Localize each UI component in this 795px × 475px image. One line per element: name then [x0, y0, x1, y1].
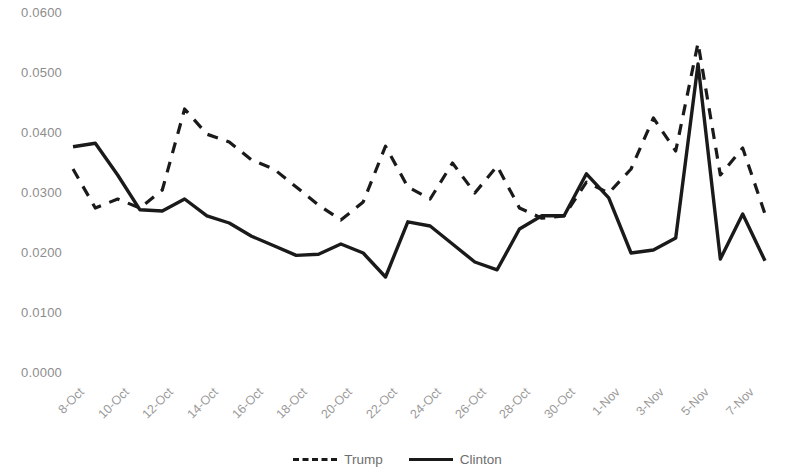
- legend-swatch-solid-icon: [409, 458, 453, 461]
- legend-label-clinton: Clinton: [460, 452, 502, 467]
- legend-swatch-dashed-icon: [293, 458, 337, 461]
- plot-area: [0, 0, 795, 475]
- legend-label-trump: Trump: [344, 452, 383, 467]
- chart-legend: Trump Clinton: [0, 452, 795, 467]
- line-chart: 0.06000.05000.04000.03000.02000.01000.00…: [0, 0, 795, 475]
- series-line-trump: [73, 43, 765, 220]
- legend-item-clinton[interactable]: Clinton: [409, 452, 502, 467]
- legend-item-trump[interactable]: Trump: [293, 452, 383, 467]
- series-line-clinton: [73, 64, 765, 277]
